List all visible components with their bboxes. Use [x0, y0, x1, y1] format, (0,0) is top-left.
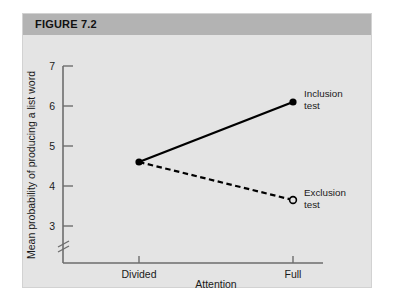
- chart-plot-area: 7 6 5 4 3 Divided Full Attention Mean pr…: [23, 35, 373, 289]
- y-tick-label-7: 7: [49, 60, 55, 72]
- y-axis-ticks: [63, 66, 73, 226]
- series-line-exclusion: [139, 162, 293, 200]
- series-label-exclusion: Exclusion test: [304, 187, 346, 210]
- series-line-inclusion: [139, 102, 293, 162]
- series-point-inclusion-full: [289, 98, 296, 105]
- x-tick-label-divided: Divided: [121, 268, 156, 280]
- series-label-exclusion-line2: test: [304, 199, 320, 210]
- x-axis-title: Attention: [195, 278, 237, 289]
- y-axis-title: Mean probability of producing a list wor…: [25, 71, 37, 259]
- figure-number-label: FIGURE 7.2: [35, 18, 97, 30]
- y-tick-label-6: 6: [49, 100, 55, 112]
- series-label-inclusion-line1: Inclusion: [304, 88, 343, 99]
- y-tick-label-4: 4: [49, 180, 55, 192]
- x-axis-ticks: [139, 256, 293, 263]
- series-label-inclusion: Inclusion test: [304, 88, 343, 111]
- figure-panel: FIGURE 7.2 7 6 5 4 3: [22, 13, 372, 288]
- y-tick-label-3: 3: [49, 220, 55, 232]
- x-tick-label-full: Full: [285, 268, 302, 280]
- series-label-exclusion-line1: Exclusion: [304, 187, 346, 198]
- line-chart: 7 6 5 4 3 Divided Full Attention Mean pr…: [23, 35, 373, 289]
- y-tick-label-5: 5: [49, 140, 55, 152]
- series-label-inclusion-line2: test: [304, 100, 320, 111]
- figure-header-band: FIGURE 7.2: [23, 14, 371, 35]
- series-point-exclusion-full: [290, 197, 297, 204]
